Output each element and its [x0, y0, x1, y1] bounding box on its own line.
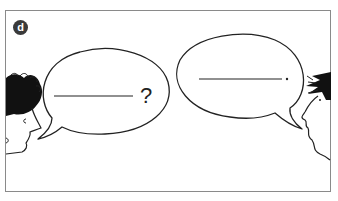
scene-illustration: ?: [0, 0, 338, 201]
right-character: [302, 72, 331, 160]
question-mark: ?: [140, 83, 152, 108]
left-speech-bubble: ?: [38, 49, 169, 139]
left-character: [6, 73, 42, 154]
right-speech-bubble: [177, 34, 304, 129]
eye-icon: [319, 99, 321, 101]
ear-icon: [24, 119, 26, 123]
period-dot: [286, 78, 288, 80]
